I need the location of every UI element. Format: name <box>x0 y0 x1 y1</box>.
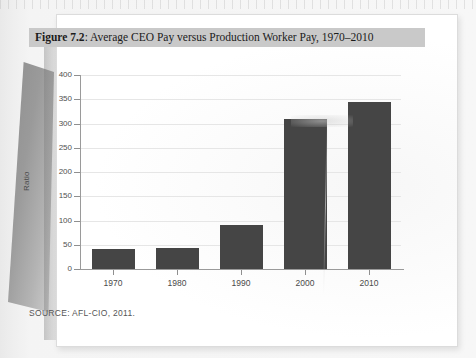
x-tick-mark <box>305 270 306 275</box>
y-tick-label: 300 <box>32 119 72 128</box>
x-axis-line <box>80 269 404 270</box>
figure-title: Average CEO Pay versus Production Worker… <box>90 31 373 43</box>
x-tick-mark <box>177 270 178 275</box>
y-tick-label: 200 <box>32 167 72 176</box>
top-ruler-marks <box>0 0 476 9</box>
y-tick-label: 100 <box>32 216 72 225</box>
x-tick-label: 1970 <box>83 278 143 288</box>
source-note: SOURCE: AFL-CIO, 2011. <box>29 308 135 318</box>
y-tick-label: 150 <box>32 191 72 200</box>
bar <box>284 119 327 269</box>
gridline <box>81 99 401 100</box>
book-page: Figure 7.2: Average CEO Pay versus Produ… <box>56 14 458 347</box>
figure-screenshot: Figure 7.2: Average CEO Pay versus Produ… <box>0 0 476 358</box>
x-tick-label: 1990 <box>211 278 271 288</box>
x-tick-label: 2010 <box>339 278 399 288</box>
bar <box>156 248 199 269</box>
y-tick-label: 350 <box>32 94 72 103</box>
x-tick-label: 2000 <box>275 278 335 288</box>
bar <box>348 102 391 269</box>
y-tick-label: 250 <box>32 143 72 152</box>
y-tick-label: 0 <box>32 264 72 273</box>
y-tick-label: 50 <box>32 240 72 249</box>
figure-number: Figure 7.2 <box>35 31 85 43</box>
plot-area <box>81 75 401 269</box>
bar <box>220 225 263 269</box>
y-tick-label: 400 <box>32 70 72 79</box>
x-tick-label: 1980 <box>147 278 207 288</box>
y-axis-label: Ratio <box>22 171 31 191</box>
bar-chart: Ratio 050100150200250300350400 197019801… <box>29 63 429 303</box>
gridline <box>81 75 401 76</box>
x-tick-mark <box>369 270 370 275</box>
x-tick-mark <box>113 270 114 275</box>
bar <box>92 249 135 269</box>
x-tick-mark <box>241 270 242 275</box>
figure-caption: Figure 7.2: Average CEO Pay versus Produ… <box>29 28 425 47</box>
